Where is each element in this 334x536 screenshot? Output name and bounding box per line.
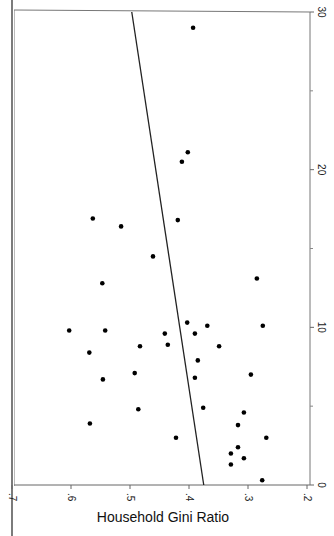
data-point	[229, 451, 234, 456]
data-point	[217, 344, 222, 349]
x-tick-label: 10	[316, 322, 327, 334]
regression-line	[132, 12, 204, 485]
data-point	[166, 342, 171, 347]
data-point	[193, 331, 198, 336]
data-point	[136, 407, 141, 412]
gini-axis-title: Household Gini Ratio	[97, 509, 230, 525]
data-point	[100, 281, 105, 286]
data-point	[242, 456, 247, 461]
data-point	[191, 26, 196, 31]
data-point	[91, 216, 96, 221]
data-point	[88, 421, 93, 426]
gini-tick-label: .4	[184, 493, 195, 502]
data-point	[151, 254, 156, 259]
data-point	[67, 328, 72, 333]
x-axis-ticks: 0102030	[310, 6, 327, 488]
data-point	[185, 320, 190, 325]
data-point	[255, 276, 260, 281]
data-point	[201, 405, 206, 410]
gini-tick-label: .3	[243, 493, 254, 502]
gini-tick-label: .5	[125, 493, 136, 502]
x-tick-label: 30	[316, 6, 327, 18]
scatter-chart: 0102030 .2.3.4.5.6.7 Household Gini Rati…	[0, 0, 334, 536]
data-point	[205, 324, 210, 329]
data-point	[242, 410, 247, 415]
data-point	[236, 445, 241, 450]
x-tick-label: 0	[316, 482, 327, 488]
data-point	[138, 344, 143, 349]
data-point	[174, 435, 179, 440]
data-point	[236, 423, 241, 428]
data-point	[260, 478, 265, 483]
x-tick-label: 20	[316, 164, 327, 176]
gini-tick-label: .7	[7, 493, 18, 502]
data-point	[163, 331, 168, 336]
plot-top-border	[14, 10, 310, 12]
data-point	[193, 376, 198, 381]
data-point	[180, 160, 185, 165]
data-point	[186, 150, 191, 155]
gini-tick-label: .6	[66, 493, 77, 502]
data-point	[101, 377, 106, 382]
data-point	[261, 324, 266, 329]
data-point	[87, 350, 92, 355]
data-point	[249, 372, 254, 377]
data-point	[229, 462, 234, 467]
data-point	[132, 371, 137, 376]
data-point	[196, 358, 201, 363]
gini-axis-ticks: .2.3.4.5.6.7	[7, 485, 313, 502]
data-point	[176, 218, 181, 223]
data-point	[103, 328, 108, 333]
data-point	[264, 435, 269, 440]
gini-tick-label: .2	[302, 493, 313, 502]
data-points	[67, 26, 269, 483]
data-point	[119, 224, 124, 229]
